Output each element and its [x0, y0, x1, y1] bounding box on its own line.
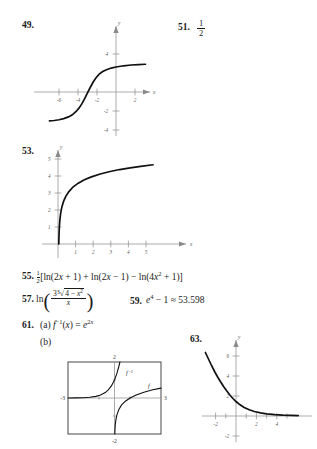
log-term-2: ln(2x − 1) [91, 272, 129, 282]
log-term-3: ln(4x2 + 1) [139, 272, 180, 282]
xtick-label-2: 2 [255, 421, 258, 427]
answer-59: e4 − 1 ≈ 53.598 [146, 295, 204, 305]
ytick-label-1: 1 [48, 224, 51, 230]
item-number-55: 55. [22, 271, 34, 281]
euler-exponent: 4 [150, 293, 153, 300]
minus-one: − 1 [156, 295, 168, 305]
ytick-label-2: 2 [48, 207, 51, 213]
graph-61b-svg: 2 -2 -3 3 f−1 f [56, 348, 171, 446]
paren-open: ( [43, 290, 50, 312]
curve-inverse-function [68, 362, 120, 398]
x-axis-label: x [189, 241, 193, 247]
ytick-label-4: 4 [226, 373, 229, 379]
window-right-label: 3 [164, 395, 167, 401]
graph-53: 1 2 3 4 5 1 2 3 4 5 x y [36, 140, 206, 262]
paren-close: ) [87, 290, 94, 312]
ytick-label-5: 5 [48, 156, 51, 162]
window-bottom-label: -2 [112, 438, 117, 444]
fraction-57: 33√4 − x2 x [51, 289, 86, 307]
ytick-label-3: 3 [48, 190, 51, 196]
xtick-label--2: -2 [213, 421, 218, 427]
bracket-close: ] [180, 272, 183, 282]
curve-53 [59, 165, 153, 244]
xtick-label-1: 1 [74, 249, 77, 255]
answer-51: 1 2 [196, 19, 206, 38]
rhs-exponent: 2x [87, 318, 93, 325]
x-axis-label: x [152, 89, 156, 95]
window-top-label: 2 [113, 354, 116, 360]
item-number-59: 59. [130, 296, 142, 306]
fraction-denominator: x [51, 298, 86, 307]
log-term-1: ln(2x + 1) [43, 272, 81, 282]
graph-49-svg: -6 -4 -2 2 4 -2 -4 x y [28, 14, 158, 142]
graph-49: -6 -4 -2 2 4 -2 -4 x y [28, 14, 158, 142]
graph-63-svg: -2 2 4 2 4 6 -2 y [196, 330, 317, 448]
ytick-label-4: 4 [105, 51, 108, 57]
fraction-denominator: 2 [197, 28, 205, 38]
ytick-label--2: -2 [225, 433, 230, 439]
graph-63: -2 2 4 2 4 6 -2 y [196, 330, 317, 448]
xtick-label--6: -6 [57, 97, 62, 103]
curve-63 [205, 353, 298, 416]
ytick-label--2: -2 [104, 108, 109, 114]
y-axis-label: y [117, 20, 121, 26]
plus-sign: + [83, 272, 88, 282]
answer-55: 1 2 [ln(2x + 1) + ln(2x − 1) − ln(4x2 + … [36, 270, 183, 284]
minus-sign: − [131, 272, 136, 282]
xtick-label--2: -2 [95, 97, 100, 103]
x-axis-arrow [179, 241, 186, 246]
answer-key-page: 49. -6 -4 -2 2 4 -2 -4 x y [0, 0, 317, 449]
y-axis-arrow [113, 26, 118, 33]
graph-61b: 2 -2 -3 3 f−1 f [56, 348, 171, 446]
ytick-label-6: 6 [226, 353, 229, 359]
curve-49 [50, 64, 146, 121]
curve-function [115, 388, 161, 434]
curve-label-inverse: f−1 [126, 369, 133, 376]
xtick-label-2: 2 [92, 249, 95, 255]
window-left-label: -3 [60, 395, 65, 401]
item-number-51: 51. [178, 22, 190, 32]
y-axis-arrow [55, 150, 60, 157]
item-number-61: 61. [22, 320, 34, 330]
numeric-value: 53.598 [178, 295, 204, 305]
approx-sign: ≈ [171, 295, 176, 305]
ytick-label-4: 4 [48, 173, 51, 179]
graph-53-svg: 1 2 3 4 5 1 2 3 4 5 x y [36, 140, 206, 262]
xtick-label--4: -4 [76, 97, 81, 103]
arg-equals: (x) = [62, 320, 80, 330]
xtick-label-4: 4 [127, 249, 130, 255]
xtick-label-4: 4 [276, 421, 279, 427]
part-b-label: (b) [40, 337, 51, 347]
answer-61a: (a) f−1(x) = e2x [40, 320, 93, 330]
fraction-numerator: 1 [197, 19, 205, 28]
fraction-one-half: 1 2 [197, 19, 205, 38]
part-a-label: (a) [40, 320, 51, 330]
y-axis-label: y [237, 334, 241, 340]
item-number-53: 53. [22, 146, 34, 156]
curve-label-f: f [148, 383, 151, 389]
xtick-label-3: 3 [110, 249, 113, 255]
ytick-label--4: -4 [104, 127, 109, 133]
fraction-numerator: 33√4 − x2 [51, 289, 86, 298]
y-axis-arrow [233, 340, 238, 347]
xtick-label-5: 5 [145, 249, 148, 255]
xtick-label-2: 2 [134, 97, 137, 103]
answer-57: ln( 33√4 − x2 x ) [36, 289, 93, 313]
x-axis-arrow [143, 89, 150, 94]
item-number-57: 57. [22, 294, 34, 304]
y-axis-label: y [59, 144, 63, 150]
